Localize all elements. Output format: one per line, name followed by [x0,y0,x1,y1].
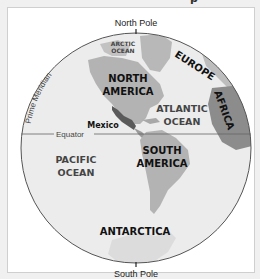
south-america-label-2: AMERICA [136,158,187,169]
north-america-label-1: NORTH [108,73,147,84]
equator-label: Equator [56,130,84,139]
north-pole-label: North Pole [115,18,158,28]
north-america-label-2: AMERICA [102,86,153,97]
atlantic-ocean-label-2: OCEAN [164,116,201,127]
south-america-label-1: SOUTH [142,145,181,156]
pacific-ocean-label-1: PACIFIC [56,154,97,165]
arctic-ocean-label-2: OCEAN [111,47,134,54]
atlantic-ocean-label-1: ATLANTIC [156,103,207,114]
south-pole-label: South Pole [114,269,158,279]
antarctica-label: ANTARCTICA [100,226,171,237]
mexico-label: Mexico [87,121,119,130]
pacific-ocean-label-2: OCEAN [58,167,95,178]
globe-map: Equator Prime Meridian North Pole South … [0,0,260,279]
arctic-ocean-label-1: ARCTIC [111,40,136,47]
